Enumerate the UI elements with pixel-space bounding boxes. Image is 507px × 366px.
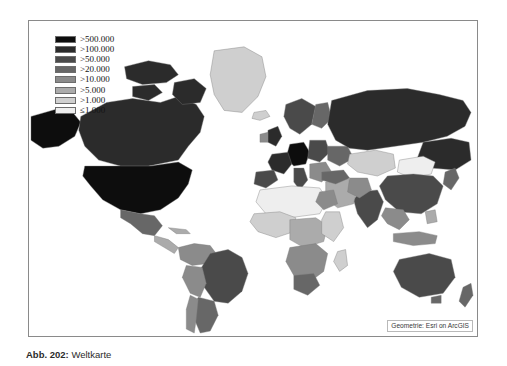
figure-caption: Abb. 202: Weltkarte <box>26 349 111 361</box>
legend-item: >5.000 <box>55 85 114 95</box>
map-legend: >500.000 >100.000 >50.000 >20.000 >10.00… <box>55 34 114 116</box>
legend-item: >50.000 <box>55 54 114 64</box>
legend-swatch-2 <box>55 56 76 63</box>
legend-item: ≤1.000 <box>55 105 114 115</box>
legend-label-4: >10.000 <box>80 75 110 84</box>
region-philippines <box>425 210 437 224</box>
legend-label-0: >500.000 <box>80 35 114 44</box>
legend-item: >500.000 <box>55 34 114 44</box>
legend-label-1: >100.000 <box>80 45 114 54</box>
world-map-frame: >500.000 >100.000 >50.000 >20.000 >10.00… <box>28 20 478 337</box>
legend-label-5: >5.000 <box>80 86 105 95</box>
legend-label-7: ≤1.000 <box>80 106 105 115</box>
figure-caption-label: Abb. 202: <box>26 349 69 360</box>
legend-swatch-3 <box>55 66 76 73</box>
legend-swatch-6 <box>55 97 76 104</box>
legend-item: >1.000 <box>55 95 114 105</box>
legend-item: >10.000 <box>55 75 114 85</box>
legend-swatch-5 <box>55 87 76 94</box>
legend-swatch-0 <box>55 36 76 43</box>
legend-label-3: >20.000 <box>80 65 110 74</box>
legend-item: >100.000 <box>55 44 114 54</box>
region-ireland <box>260 132 268 142</box>
legend-swatch-1 <box>55 46 76 53</box>
legend-label-6: >1.000 <box>80 96 105 105</box>
legend-swatch-7 <box>55 107 76 114</box>
legend-item: >20.000 <box>55 65 114 75</box>
figure-container: >500.000 >100.000 >50.000 >20.000 >10.00… <box>0 0 507 366</box>
legend-swatch-4 <box>55 76 76 83</box>
figure-caption-text: Weltkarte <box>71 349 111 360</box>
legend-label-2: >50.000 <box>80 55 110 64</box>
map-attribution: Geometrie: Esri on ArcGIS <box>387 320 473 332</box>
